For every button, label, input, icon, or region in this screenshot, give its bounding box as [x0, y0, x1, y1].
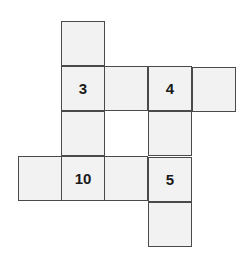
- grid-cell-r3-c1[interactable]: 10: [61, 156, 105, 201]
- grid-cell-r1-c3[interactable]: 4: [148, 66, 192, 111]
- grid-cell-r1-c4[interactable]: [192, 67, 236, 112]
- grid-cell-r3-c3[interactable]: 5: [148, 157, 192, 202]
- grid-cell-r3-c2[interactable]: [104, 156, 148, 201]
- grid-cell-r3-c0[interactable]: [18, 156, 62, 201]
- grid-cell-r2-c1[interactable]: [61, 111, 105, 156]
- grid-cell-r2-c3[interactable]: [148, 111, 192, 156]
- number-grid-puzzle: 3 4 10 5: [0, 0, 251, 268]
- grid-cell-r4-c3[interactable]: [148, 202, 192, 247]
- grid-cell-r1-c1[interactable]: 3: [61, 66, 105, 111]
- grid-cell-r1-c2[interactable]: [104, 66, 148, 111]
- grid-cell-r0-c1[interactable]: [61, 21, 105, 66]
